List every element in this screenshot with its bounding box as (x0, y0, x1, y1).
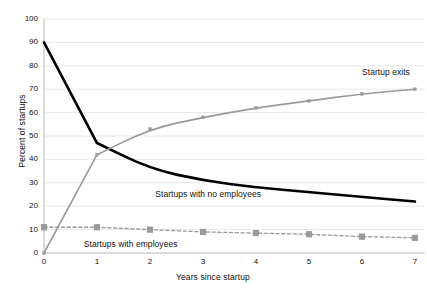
series-marker (359, 234, 364, 239)
y-tick-label: 90 (16, 37, 38, 46)
x-tick-label: 0 (34, 257, 54, 266)
series-marker (96, 153, 99, 156)
series-marker (412, 235, 417, 240)
y-tick-label: 50 (16, 131, 38, 140)
y-tick-label: 40 (16, 154, 38, 163)
line-chart-plot (0, 0, 427, 294)
x-tick-label: 5 (299, 257, 319, 266)
series-annotation-label: Startups with no employees (155, 189, 261, 199)
series-marker (149, 128, 152, 131)
series-marker (306, 232, 311, 237)
y-tick-label: 80 (16, 61, 38, 70)
x-tick-label: 3 (193, 257, 213, 266)
series-marker (94, 225, 99, 230)
x-axis-title: Years since startup (176, 272, 250, 282)
y-tick-label: 0 (16, 248, 38, 257)
series-marker (361, 92, 364, 95)
y-tick-label: 10 (16, 225, 38, 234)
x-tick-label: 1 (87, 257, 107, 266)
x-tick-label: 7 (405, 257, 425, 266)
x-tick-label: 6 (352, 257, 372, 266)
series-marker (253, 231, 258, 236)
x-tick-label: 2 (140, 257, 160, 266)
series-annotation-label: Startups with employees (84, 239, 178, 249)
series-marker (202, 116, 205, 119)
series-marker (308, 100, 311, 103)
series-marker (43, 252, 46, 255)
y-tick-label: 100 (16, 14, 38, 23)
series-marker (147, 227, 152, 232)
x-tick-label: 4 (246, 257, 266, 266)
y-tick-label: 60 (16, 108, 38, 117)
y-tick-label: 70 (16, 84, 38, 93)
series-marker (200, 229, 205, 234)
series-marker (255, 107, 258, 110)
series-marker (414, 88, 417, 91)
series-annotation-label: Startup exits (362, 67, 410, 77)
y-tick-label: 30 (16, 178, 38, 187)
chart-container: Percent of startups Years since startup … (0, 0, 427, 294)
series-marker (41, 225, 46, 230)
y-tick-label: 20 (16, 201, 38, 210)
